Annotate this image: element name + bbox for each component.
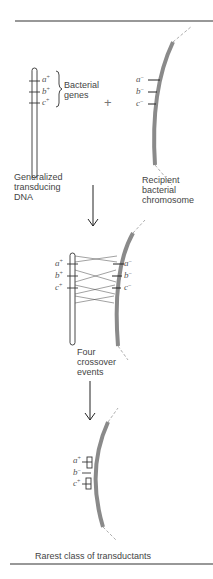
paired-donor-gene-c: c+ (55, 282, 62, 292)
paired-recipient-gene-c: c− (124, 282, 131, 292)
donor-segment-c (86, 478, 91, 489)
label-line: events (77, 367, 116, 377)
label-line: Bacterial (64, 80, 99, 90)
recipient-gene-a: a− (136, 74, 144, 84)
transductant-gene-b: b− (73, 467, 81, 477)
crossover-lines (75, 256, 117, 303)
transduction-diagram (0, 0, 213, 579)
label-line: Recipient (142, 175, 194, 185)
transductant-gene-a: a+ (73, 455, 81, 465)
label-line: DNA (14, 192, 63, 202)
transductant-gene-c: c+ (73, 478, 80, 488)
label-line: crossover (77, 357, 116, 367)
label-line: transducing (14, 182, 63, 192)
brace-icon (56, 71, 62, 107)
donor-gene-c: c+ (42, 97, 49, 107)
label-line: bacterial (142, 185, 194, 195)
crossover-caption: Four crossover events (77, 347, 116, 377)
recipient-gene-c: c− (136, 98, 143, 108)
chromosome-continuation (103, 527, 117, 541)
chromosome-continuation (108, 408, 118, 422)
recipient-label: Recipient bacterial chromosome (142, 175, 194, 205)
label-line: genes (64, 90, 99, 100)
transductant-caption: Rarest class of transductants (35, 551, 151, 561)
recipient-chromosome-arc (154, 42, 173, 165)
donor-label: Generalized transducing DNA (14, 172, 63, 202)
plus-sign: + (104, 98, 112, 108)
donor-segment-a (87, 457, 92, 468)
label-line: chromosome (142, 195, 194, 205)
chromosome-continuation-top (173, 26, 192, 42)
chromosome-continuation (133, 220, 145, 233)
donor-gene-b: b+ (42, 86, 50, 96)
paired-recipient-gene-b: b− (124, 270, 132, 280)
donor-gene-a: a+ (42, 74, 50, 84)
paired-donor-gene-a: a+ (55, 258, 63, 268)
transductant-chromosome (96, 422, 108, 527)
donor-dna-fragment (32, 68, 37, 178)
paired-recipient-gene-a: a− (124, 258, 132, 268)
brace-label: Bacterial genes (64, 80, 99, 100)
recipient-gene-b: b− (136, 86, 144, 96)
label-line: Generalized (14, 172, 63, 182)
donor-dna-paired (70, 253, 75, 345)
paired-donor-gene-b: b+ (55, 270, 63, 280)
label-line: Four (77, 347, 116, 357)
chromosome-continuation (118, 346, 128, 360)
